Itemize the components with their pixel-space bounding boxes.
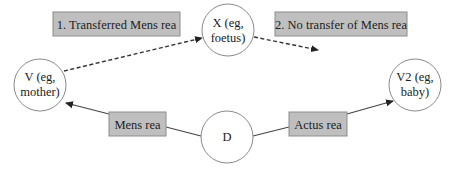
solid-arrow-actus-rea-to-v2 bbox=[347, 101, 393, 114]
node-v2-label-line2: baby) bbox=[401, 85, 429, 99]
dashed-arrow-x-to-nowhere bbox=[254, 37, 318, 50]
node-x-foetus: X (eg, foetus) bbox=[202, 4, 254, 56]
box-no-transfer-mens-rea-label: 2. No transfer of Mens rea bbox=[275, 18, 407, 32]
box-transferred-mens-rea-label: 1. Transferred Mens rea bbox=[57, 18, 177, 32]
box-mens-rea: Mens rea bbox=[109, 112, 166, 136]
node-v-mother: V (eg, mother) bbox=[14, 59, 66, 111]
node-d-defendant: D bbox=[201, 111, 253, 163]
node-v2-baby: V2 (eg, baby) bbox=[389, 59, 441, 111]
node-v-label-line1: V (eg, bbox=[24, 70, 55, 84]
box-no-transfer-mens-rea: 2. No transfer of Mens rea bbox=[275, 12, 407, 36]
box-transferred-mens-rea: 1. Transferred Mens rea bbox=[53, 12, 180, 36]
dashed-arrow-v-to-x bbox=[64, 38, 202, 71]
box-mens-rea-label: Mens rea bbox=[114, 118, 161, 132]
solid-line-d-to-mens-rea bbox=[166, 127, 201, 136]
node-v2-label-line1: V2 (eg, bbox=[396, 70, 434, 84]
box-actus-rea: Actus rea bbox=[289, 112, 347, 136]
node-d-label: D bbox=[222, 130, 231, 144]
solid-line-d-to-actus-rea bbox=[253, 127, 289, 136]
node-x-label-line1: X (eg, bbox=[212, 16, 243, 30]
node-x-label-line2: foetus) bbox=[211, 31, 246, 45]
node-v-label-line2: mother) bbox=[20, 85, 60, 99]
solid-arrow-mens-rea-to-v bbox=[66, 103, 109, 114]
box-actus-rea-label: Actus rea bbox=[294, 118, 342, 132]
transferred-mens-rea-diagram: 1. Transferred Mens rea 2. No transfer o… bbox=[0, 0, 456, 174]
